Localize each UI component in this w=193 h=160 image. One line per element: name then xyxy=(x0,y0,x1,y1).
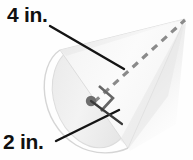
cone-diagram-figure: 4 in. 2 in. xyxy=(0,0,193,160)
slant-height-label: 4 in. xyxy=(7,4,48,25)
radius-label: 2 in. xyxy=(3,131,44,152)
